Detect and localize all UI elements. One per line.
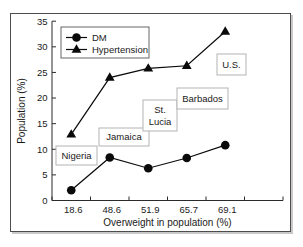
y-tick-label: 35 <box>37 16 48 27</box>
y-tick-label: 0 <box>42 195 47 206</box>
marker-circle-dm <box>221 141 230 150</box>
legend-label-dm: DM <box>92 32 107 43</box>
annotation-label-st-lucia: St. <box>154 104 166 115</box>
figure: 0510152025303518.648.651.965.769.1Overwe… <box>0 0 303 247</box>
marker-circle-dm <box>67 186 76 195</box>
marker-triangle-hypertension <box>182 61 192 69</box>
x-tick-label: 18.6 <box>64 204 83 215</box>
marker-triangle-hypertension <box>220 26 230 34</box>
legend-label-hypertension: Hypertension <box>92 44 148 55</box>
figure-border: 0510152025303518.648.651.965.769.1Overwe… <box>10 13 291 232</box>
x-axis-title: Overweight in population (%) <box>103 217 231 228</box>
x-tick-label: 48.6 <box>103 204 122 215</box>
annotation-label-nigeria: Nigeria <box>61 150 92 161</box>
y-tick-label: 30 <box>37 41 48 52</box>
y-tick-label: 10 <box>37 144 48 155</box>
y-tick-label: 20 <box>37 92 48 103</box>
marker-triangle-hypertension <box>143 63 153 71</box>
annotation-label-jamaica: Jamaica <box>106 131 142 142</box>
y-tick-label: 5 <box>42 169 47 180</box>
marker-circle-dm <box>182 154 191 163</box>
marker-triangle-hypertension <box>66 129 76 137</box>
y-tick-label: 15 <box>37 118 48 129</box>
annotation-label-barbados: Barbados <box>182 93 223 104</box>
y-axis-title: Population (%) <box>16 78 27 144</box>
x-tick-label: 65.7 <box>180 204 199 215</box>
chart-svg: 0510152025303518.648.651.965.769.1Overwe… <box>11 14 290 231</box>
marker-circle-dm <box>105 153 114 162</box>
y-tick-label: 25 <box>37 67 48 78</box>
legend-marker-dm <box>72 33 81 42</box>
annotation-label-u-s: U.S. <box>222 59 240 70</box>
x-tick-label: 51.9 <box>141 204 160 215</box>
marker-circle-dm <box>144 164 153 173</box>
annotation-label-st-lucia: Lucia <box>149 116 172 127</box>
x-tick-label: 69.1 <box>218 204 237 215</box>
